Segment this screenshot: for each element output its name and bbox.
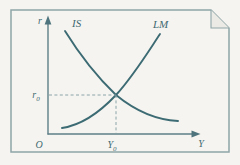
x-axis-label: Y — [198, 138, 205, 149]
equilibrium-rate-label: r0 — [32, 89, 40, 103]
equilibrium-rate-subscript: 0 — [36, 95, 40, 103]
y-axis-label: r — [38, 15, 42, 26]
lm-curve-label: LM — [152, 18, 169, 30]
origin-label: O — [35, 139, 42, 150]
is-curve-label: IS — [71, 17, 82, 29]
equilibrium-income-label: Y0 — [107, 139, 117, 153]
is-lm-figure: r Y O IS LM r0 Y0 — [0, 0, 240, 165]
equilibrium-income-subscript: 0 — [113, 145, 117, 153]
label-layer: r Y O IS LM r0 Y0 — [0, 0, 240, 165]
